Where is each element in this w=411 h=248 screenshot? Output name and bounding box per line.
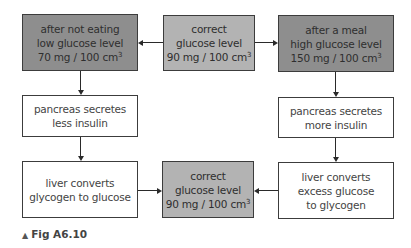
- arrow-left-icon: [138, 40, 143, 46]
- box-liver-glucose-to-glycogen: liver converts excess glucose to glycoge…: [278, 162, 394, 219]
- box-text-line: pancreas secretes: [290, 104, 382, 118]
- box-pancreas-more-insulin: pancreas secretes more insulin: [278, 97, 394, 138]
- box-liver-glycogen-to-glucose: liver converts glycogen to glucose: [22, 161, 138, 218]
- box-text-line: to glycogen: [306, 198, 365, 212]
- connector-line: [259, 190, 278, 191]
- triangle-marker-icon: ▲: [22, 231, 28, 240]
- box-text-line: 90 mg / 100 cm3: [167, 50, 252, 64]
- box-text-line: more insulin: [305, 118, 367, 132]
- box-text-line: after a meal: [305, 23, 367, 37]
- concentration-value: 150 mg / 100 cm: [290, 52, 377, 64]
- box-text-line: liver converts: [302, 170, 371, 184]
- box-after-not-eating: after not eating low glucose level 70 mg…: [22, 14, 138, 71]
- box-text-line: glucose level: [176, 36, 242, 50]
- connector-line: [143, 42, 163, 43]
- arrow-right-icon: [273, 40, 278, 46]
- connector-line: [138, 190, 157, 191]
- superscript: 3: [247, 51, 251, 59]
- box-text-line: glycogen to glucose: [29, 190, 131, 204]
- superscript: 3: [118, 51, 122, 59]
- box-correct-glucose-bottom: correct glucose level 90 mg / 100 cm3: [162, 161, 254, 218]
- box-text-line: high glucose level: [290, 37, 381, 51]
- box-text-line: pancreas secretes: [34, 102, 126, 116]
- figure-label: Fig A6.10: [31, 228, 87, 240]
- box-text-line: 70 mg / 100 cm3: [38, 50, 123, 64]
- figure-caption: ▲Fig A6.10: [22, 228, 87, 240]
- connector-line: [335, 72, 336, 92]
- box-text-line: less insulin: [52, 116, 107, 130]
- box-text-line: glucose level: [175, 183, 241, 197]
- box-text-line: after not eating: [41, 22, 120, 36]
- box-text-line: 150 mg / 100 cm3: [290, 51, 381, 65]
- concentration-value: 70 mg / 100 cm: [38, 51, 118, 63]
- box-correct-glucose-top: correct glucose level 90 mg / 100 cm3: [163, 15, 255, 71]
- concentration-value: 90 mg / 100 cm: [166, 198, 246, 210]
- box-text-line: 90 mg / 100 cm3: [166, 197, 251, 211]
- box-text-line: correct: [191, 22, 226, 36]
- concentration-value: 90 mg / 100 cm: [167, 51, 247, 63]
- box-text-line: correct: [190, 169, 225, 183]
- connector-line: [80, 71, 81, 90]
- arrow-right-icon: [157, 188, 162, 194]
- box-after-a-meal: after a meal high glucose level 150 mg /…: [278, 15, 394, 72]
- arrow-left-icon: [254, 188, 259, 194]
- superscript: 3: [377, 52, 381, 60]
- connector-line: [335, 138, 336, 157]
- box-text-line: excess glucose: [298, 184, 374, 198]
- box-text-line: low glucose level: [37, 36, 124, 50]
- connector-line: [255, 42, 273, 43]
- box-pancreas-less-insulin: pancreas secretes less insulin: [22, 95, 138, 137]
- connector-line: [80, 137, 81, 156]
- box-text-line: liver converts: [46, 176, 115, 190]
- superscript: 3: [246, 198, 250, 206]
